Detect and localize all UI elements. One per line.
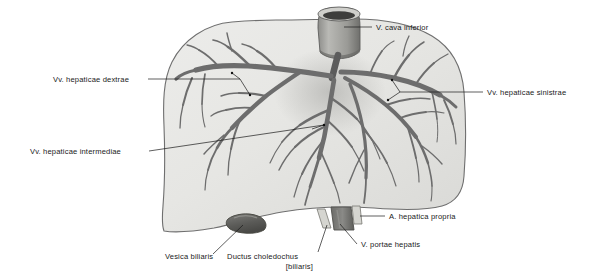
label-text-vv-hepaticae-dextrae: Vv. hepaticae dextrae [53,75,129,84]
liver-anatomy-figure: V. cava inferior Vv. hepaticae dextrae V… [0,0,602,280]
porta-hepatis-structures [317,206,362,230]
leader-ductus-choledochus [318,225,327,252]
anchor-dot-sinistrae-lower [387,99,389,101]
label-text-ductus-choledochus: Ductus choledochus [227,252,298,261]
label-text-vv-hepaticae-intermediae: Vv. hepaticae intermediae [30,147,121,156]
anchor-dot-sinistrae-upper [391,79,393,81]
hepatic-artery-stump [352,206,362,224]
label-text-a-hepatica-propria: A. hepatica propria [389,212,456,221]
anchor-dot-dextrae-upper [231,72,233,74]
vena-cava-stump [318,7,360,59]
label-text-vesica-biliaris: Vesica biliaris [165,252,213,261]
label-text-v-cava-inferior: V. cava inferior [376,23,429,32]
gallbladder [226,214,266,233]
anchor-dot-intermediae [323,124,325,126]
anchor-dot-dextrae-lower [249,94,251,96]
label-text-ductus-choledochus-line2: [biliaris] [286,262,313,271]
label-text-v-portae-hepatis: V. portae hepatis [361,240,420,249]
leader-vesica-biliaris [213,225,243,254]
label-text-vv-hepaticae-sinistrae: Vv. hepaticae sinistrae [487,88,566,97]
label-a-hepatica-propria[interactable]: A. hepatica propria [360,212,456,221]
liver-body [162,19,465,232]
bile-duct-stump [317,209,331,228]
